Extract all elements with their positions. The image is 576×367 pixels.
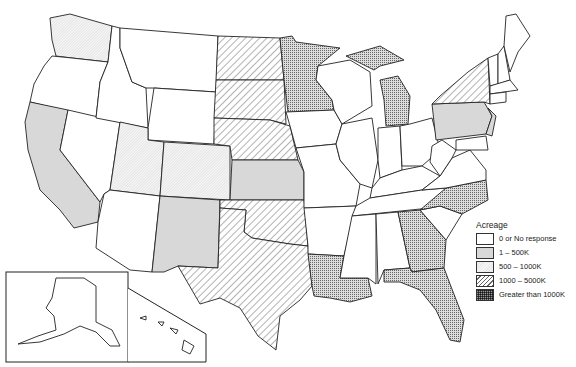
us-map <box>0 0 576 367</box>
state-NM <box>152 196 220 272</box>
state-NY <box>432 58 490 104</box>
legend-label: 500 – 1000K <box>499 262 542 271</box>
state-VT <box>488 54 498 86</box>
state-ND <box>216 36 284 80</box>
state-CO <box>160 142 230 200</box>
legend-item: Greater than 1000K <box>476 288 576 301</box>
state-KS <box>230 160 304 200</box>
state-WY <box>148 88 216 144</box>
state-PA <box>432 102 492 140</box>
legend-item: 0 or No response <box>476 232 576 245</box>
state-ME <box>504 14 530 72</box>
legend-swatch-gray <box>476 247 494 259</box>
legend-title: Acreage <box>476 220 576 230</box>
legend-label: 0 or No response <box>499 234 557 243</box>
legend-label: Greater than 1000K <box>499 290 565 299</box>
legend-swatch-none <box>476 233 494 245</box>
legend-swatch-light <box>476 261 494 273</box>
legend-item: 500 – 1000K <box>476 260 576 273</box>
state-MD <box>456 136 488 150</box>
legend-item: 1000 – 5000K <box>476 274 576 287</box>
legend: Acreage 0 or No response 1 – 500K 500 – … <box>476 220 576 302</box>
legend-swatch-cross <box>476 289 494 301</box>
legend-item: 1 – 500K <box>476 246 576 259</box>
state-WA <box>50 14 112 62</box>
hawaii-inset-frame <box>128 288 206 362</box>
legend-swatch-hatch <box>476 275 494 287</box>
legend-label: 1 – 500K <box>499 248 529 257</box>
legend-label: 1000 – 5000K <box>499 276 546 285</box>
state-FL <box>384 268 464 342</box>
state-IA <box>286 110 342 148</box>
state-IN <box>378 126 402 178</box>
state-AZ <box>96 190 160 272</box>
state-MT <box>120 28 218 92</box>
state-SD <box>214 80 286 124</box>
state-CT <box>490 92 506 104</box>
